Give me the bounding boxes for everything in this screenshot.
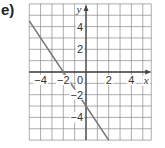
axes [29, 5, 151, 140]
coordinate-plane: −4−22442−2−40xy [0, 0, 165, 148]
x-tick-label: 2 [106, 74, 112, 86]
x-axis-label: x [143, 74, 149, 86]
y-axis-label: y [76, 3, 82, 15]
y-tick-label: 4 [77, 21, 83, 33]
x-tick-label: −2 [57, 74, 70, 86]
y-tick-label: −2 [70, 89, 83, 101]
origin-label: 0 [77, 74, 83, 86]
y-axis-arrow-icon [84, 5, 89, 11]
x-tick-label: −4 [34, 74, 47, 86]
y-tick-label: −4 [70, 111, 83, 123]
x-tick-label: 4 [128, 74, 134, 86]
y-tick-label: 2 [77, 43, 83, 55]
tick-labels: −4−22442−2−40xy [33, 3, 150, 124]
